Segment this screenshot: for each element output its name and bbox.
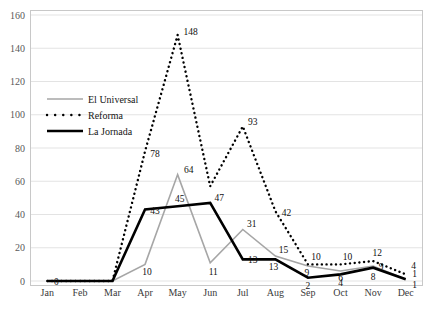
data-point-label: 9 xyxy=(379,262,384,272)
y-axis-tick-label: 20 xyxy=(15,242,25,253)
x-axis-tick-label: May xyxy=(168,287,186,298)
data-point-label: 1 xyxy=(412,280,417,290)
data-point-label: 43 xyxy=(150,206,160,216)
data-point-label: 9 xyxy=(305,268,310,278)
x-axis-tick-label: Nov xyxy=(365,287,382,298)
data-point-label: 13 xyxy=(269,262,279,272)
y-axis-tick-label: 140 xyxy=(10,43,25,54)
data-point-label: 10 xyxy=(311,252,321,262)
x-axis-tick-label: Oct xyxy=(333,287,348,298)
data-point-labels-group: 1064113115969178148934210101240434547131… xyxy=(54,27,417,291)
data-point-label: 11 xyxy=(209,267,218,277)
series-line-reforma xyxy=(47,35,405,281)
data-point-label: 0 xyxy=(54,277,59,287)
series-lines-group xyxy=(47,35,405,281)
y-axis-tick-label: 100 xyxy=(10,109,25,120)
data-point-label: 78 xyxy=(150,149,160,159)
y-axis-tick-label: 40 xyxy=(15,209,25,220)
data-point-label: 10 xyxy=(142,267,152,277)
data-point-label: 2 xyxy=(306,281,311,291)
data-point-label: 10 xyxy=(343,252,353,262)
data-point-label: 42 xyxy=(282,208,292,218)
data-point-label: 47 xyxy=(214,193,224,203)
data-point-label: 15 xyxy=(279,245,289,255)
x-axis-tick-labels: JanFebMarAprMayJunJulAugSepOctNovDec xyxy=(41,287,415,298)
y-axis-tick-label: 0 xyxy=(20,276,25,287)
data-point-label: 8 xyxy=(371,272,376,282)
data-point-label: 148 xyxy=(184,27,199,37)
y-axis-tick-label: 120 xyxy=(10,76,25,87)
x-axis-tick-label: Mar xyxy=(104,287,121,298)
y-axis-tick-label: 80 xyxy=(15,143,25,154)
data-point-label: 93 xyxy=(248,117,258,127)
x-axis-tick-label: Apr xyxy=(137,287,153,298)
y-axis-tick-label: 160 xyxy=(10,10,25,21)
x-axis-tick-label: Jul xyxy=(237,287,249,298)
gridlines-group xyxy=(31,15,422,281)
legend-label-la-jornada: La Jornada xyxy=(88,126,133,137)
chart-container: 020406080100120140160 JanFebMarAprMayJun… xyxy=(0,0,429,309)
line-chart: 020406080100120140160 JanFebMarAprMayJun… xyxy=(0,0,429,309)
series-line-el-universal xyxy=(47,175,405,281)
y-axis-tick-label: 60 xyxy=(15,176,25,187)
data-point-label: 4 xyxy=(338,278,343,288)
x-axis-tick-label: Jan xyxy=(41,287,54,298)
x-axis-tick-label: Feb xyxy=(72,287,87,298)
legend-label-el-universal: El Universal xyxy=(88,94,138,105)
data-point-label: 31 xyxy=(247,219,257,229)
data-point-label: 45 xyxy=(175,194,185,204)
y-axis-tick-labels: 020406080100120140160 xyxy=(10,10,25,287)
x-axis-tick-label: Aug xyxy=(267,287,284,298)
legend-label-reforma: Reforma xyxy=(88,110,124,121)
x-axis-tick-label: Jun xyxy=(203,287,217,298)
data-point-label: 4 xyxy=(411,261,416,271)
data-point-label: 13 xyxy=(248,255,258,265)
data-point-label: 64 xyxy=(184,165,194,175)
data-point-label: 12 xyxy=(372,248,382,258)
